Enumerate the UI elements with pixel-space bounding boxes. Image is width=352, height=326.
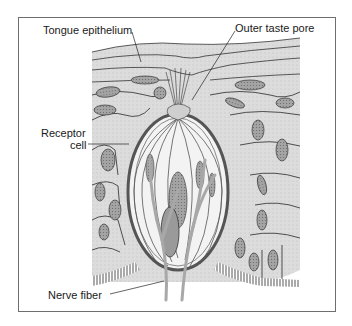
label-cell: cell [70,139,87,151]
label-outer-taste-pore: Outer taste pore [235,22,315,34]
label-tongue-epithelium: Tongue epithelium [43,24,132,36]
label-nerve-fiber: Nerve fiber [48,289,102,301]
label-receptor: Receptor [41,127,86,139]
taste-bud-illustration [0,0,352,326]
